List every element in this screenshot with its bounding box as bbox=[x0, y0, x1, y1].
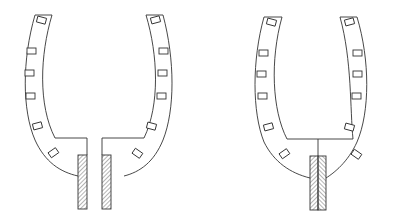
right-slots bbox=[257, 18, 362, 160]
left-posts bbox=[78, 155, 111, 209]
diagram-canvas bbox=[0, 0, 401, 224]
right-post bbox=[310, 156, 326, 210]
left-post-b bbox=[102, 155, 111, 209]
left-post-a bbox=[78, 155, 87, 209]
left-u-frame bbox=[25, 15, 172, 176]
right-u-frame bbox=[255, 17, 367, 178]
